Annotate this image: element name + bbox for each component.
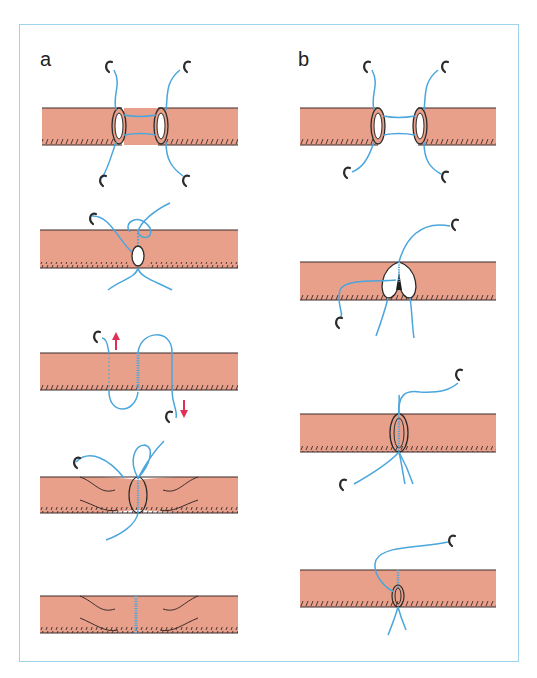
- panel-a-step-2: [40, 203, 238, 290]
- arrow-down-icon: [180, 400, 188, 418]
- panel-a-step-4: [40, 441, 238, 540]
- suture-diagram: [0, 0, 537, 678]
- panel-a-step-5: [40, 596, 238, 633]
- panel-b-step-4: [300, 536, 496, 635]
- panel-b-step-1: [300, 62, 496, 182]
- arrow-up-icon: [112, 332, 120, 350]
- panel-b-step-2: [300, 220, 496, 338]
- panel-a-step-3: [40, 332, 238, 422]
- panel-a-step-1: [42, 62, 238, 186]
- panel-b-step-3: [300, 370, 496, 490]
